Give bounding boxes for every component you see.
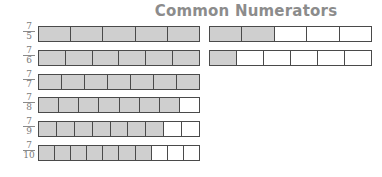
denominator: 7 xyxy=(22,80,36,89)
denominator: 8 xyxy=(22,103,36,112)
shaded-part xyxy=(210,27,242,41)
unshaded-part xyxy=(180,98,199,112)
shaded-part xyxy=(87,146,103,160)
unshaded-part xyxy=(168,146,184,160)
unshaded-part xyxy=(307,27,339,41)
fraction-strip xyxy=(38,26,200,42)
shaded-part xyxy=(66,51,93,65)
shaded-part xyxy=(242,27,274,41)
unshaded-part xyxy=(182,122,199,136)
denominator: 5 xyxy=(22,32,36,41)
denominator: 10 xyxy=(22,151,36,160)
shaded-part xyxy=(62,75,85,89)
shaded-part xyxy=(39,75,62,89)
shaded-part xyxy=(39,98,59,112)
shaded-part xyxy=(93,51,120,65)
fraction-label: 79 xyxy=(22,117,36,136)
shaded-part xyxy=(119,146,135,160)
numerator: 7 xyxy=(22,70,36,79)
shaded-part xyxy=(39,27,71,41)
fraction-strip xyxy=(38,145,200,161)
numerator: 7 xyxy=(22,46,36,55)
shaded-part xyxy=(140,98,160,112)
shaded-part xyxy=(39,51,66,65)
shaded-part xyxy=(210,51,237,65)
denominator: 9 xyxy=(22,127,36,136)
shaded-part xyxy=(154,75,177,89)
shaded-part xyxy=(59,98,79,112)
shaded-part xyxy=(103,27,135,41)
shaded-part xyxy=(39,122,57,136)
fraction-strip xyxy=(38,97,200,113)
fraction-label: 710 xyxy=(22,141,36,160)
unshaded-part xyxy=(291,51,318,65)
shaded-part xyxy=(108,75,131,89)
shaded-part xyxy=(136,27,168,41)
shaded-part xyxy=(71,27,103,41)
numerator: 7 xyxy=(22,93,36,102)
numerator: 7 xyxy=(22,117,36,126)
shaded-part xyxy=(103,146,119,160)
shaded-part xyxy=(75,122,93,136)
shaded-part xyxy=(146,51,173,65)
diagram-title: Common Numerators xyxy=(0,2,382,20)
unshaded-part xyxy=(275,27,307,41)
shaded-part xyxy=(85,75,108,89)
numerator: 7 xyxy=(22,141,36,150)
fraction-strip xyxy=(38,74,200,90)
numerator: 7 xyxy=(22,22,36,31)
unshaded-part xyxy=(264,51,291,65)
shaded-part xyxy=(57,122,75,136)
shaded-part xyxy=(136,146,152,160)
unshaded-part xyxy=(318,51,345,65)
unshaded-part xyxy=(184,146,199,160)
fraction-strip xyxy=(38,121,200,137)
shaded-part xyxy=(177,75,199,89)
shaded-part xyxy=(119,51,146,65)
shaded-part xyxy=(39,146,55,160)
shaded-part xyxy=(160,98,180,112)
fraction-label: 77 xyxy=(22,70,36,89)
shaded-part xyxy=(99,98,119,112)
shaded-part xyxy=(71,146,87,160)
unshaded-part xyxy=(340,27,371,41)
fraction-label: 78 xyxy=(22,93,36,112)
shaded-part xyxy=(79,98,99,112)
shaded-part xyxy=(111,122,129,136)
shaded-part xyxy=(55,146,71,160)
shaded-part xyxy=(128,122,146,136)
shaded-part xyxy=(173,51,199,65)
denominator: 6 xyxy=(22,56,36,65)
fraction-strip xyxy=(209,26,372,42)
shaded-part xyxy=(120,98,140,112)
shaded-part xyxy=(146,122,164,136)
unshaded-part xyxy=(237,51,264,65)
unshaded-part xyxy=(345,51,371,65)
fraction-strip xyxy=(209,50,372,66)
shaded-part xyxy=(168,27,199,41)
fraction-label: 75 xyxy=(22,22,36,41)
unshaded-part xyxy=(164,122,182,136)
shaded-part xyxy=(131,75,154,89)
fraction-strip xyxy=(38,50,200,66)
fraction-label: 76 xyxy=(22,46,36,65)
unshaded-part xyxy=(152,146,168,160)
shaded-part xyxy=(93,122,111,136)
